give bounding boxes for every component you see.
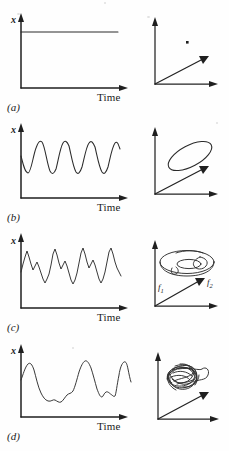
curve-quasi-periodic <box>21 248 121 284</box>
frequency-label-f2: f2 <box>207 278 213 289</box>
panel-a: x Time (a) <box>0 6 229 116</box>
panel-b-letter: (b) <box>7 212 20 223</box>
panel-c-y-axis-label: x <box>11 236 16 246</box>
panel-a-letter: (a) <box>7 102 20 113</box>
panel-b-y-axis-label: x <box>11 125 16 135</box>
panel-b-x-axis-label: Time <box>97 202 121 213</box>
limit-cycle-orbit <box>164 135 216 176</box>
panel-d-y-axis-label: x <box>11 346 16 356</box>
strange-attractor-trajectory <box>167 364 209 390</box>
curve-periodic <box>21 141 120 173</box>
panel-c-letter: (c) <box>7 322 19 333</box>
figure-root: x Time (a) x Tim <box>0 0 229 451</box>
panel-d-letter: (d) <box>7 431 20 442</box>
panel-b: x Time (b) <box>0 116 229 226</box>
panel-c: x Time (c) f1 f2 <box>0 226 229 336</box>
panel-c-time-series-axes <box>18 233 128 311</box>
torus-outer-ring <box>160 251 214 274</box>
panel-a-phase-axes <box>152 17 218 87</box>
torus-trajectory-wrap <box>171 267 178 274</box>
frequency-label-f1-sub: 1 <box>161 287 164 294</box>
panel-a-x-axis-label: Time <box>97 92 121 103</box>
curve-chaotic <box>21 361 131 402</box>
fixed-point-marker <box>186 41 189 44</box>
panel-a-y-axis-label: x <box>11 15 16 25</box>
panel-d: x Time (d) <box>0 337 229 447</box>
frequency-label-f1: f1 <box>158 283 164 294</box>
scan-speck <box>104 2 106 4</box>
panel-b-phase-axes <box>152 127 218 197</box>
torus-inner-hole <box>177 259 201 268</box>
panel-d-graphics <box>0 337 229 449</box>
panel-a-time-series-axes <box>18 13 128 91</box>
panel-d-x-axis-label: Time <box>97 421 121 432</box>
panel-d-time-series-axes <box>18 344 128 420</box>
panel-c-x-axis-label: Time <box>97 312 121 323</box>
frequency-label-f2-sub: 2 <box>210 282 213 289</box>
